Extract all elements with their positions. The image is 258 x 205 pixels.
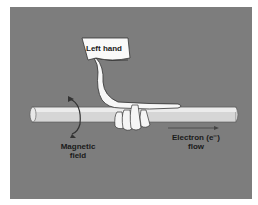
electron-flow-label-line2: flow — [166, 142, 226, 151]
magnetic-field-label-line1: Magnetic — [56, 142, 100, 151]
left-hand-rule-illustration — [0, 0, 258, 205]
magnetic-field-label: Magnetic field — [56, 142, 100, 160]
electron-flow-arrow — [168, 126, 219, 130]
electron-flow-label-line1: Electron (e⁻) — [166, 133, 226, 142]
magnetic-field-label-line2: field — [56, 151, 100, 160]
electron-flow-label: Electron (e⁻) flow — [166, 133, 226, 151]
left-hand-label: Left hand — [86, 44, 122, 53]
